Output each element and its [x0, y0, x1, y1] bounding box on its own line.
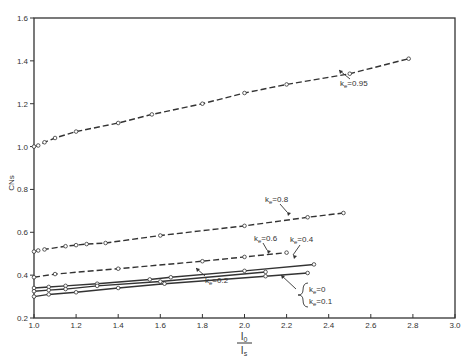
data-point-marker: [243, 91, 247, 95]
x-tick-label: 1.2: [71, 321, 83, 330]
data-point-marker: [64, 244, 68, 248]
data-point-marker: [85, 242, 89, 246]
data-point-marker: [74, 290, 78, 294]
svg-text:I0: I0: [241, 331, 248, 343]
data-point-marker: [116, 267, 120, 271]
y-tick-label: 0.4: [17, 271, 29, 280]
data-point-marker: [148, 278, 152, 282]
series-line: [34, 59, 409, 147]
data-point-marker: [342, 211, 346, 215]
chart: 0.20.40.60.81.01.21.41.6 1.01.21.41.61.8…: [0, 0, 475, 361]
data-point-marker: [47, 293, 51, 297]
data-point-marker: [43, 140, 47, 144]
data-point-marker: [243, 255, 247, 259]
data-point-marker: [53, 136, 57, 140]
data-point-marker: [74, 243, 78, 247]
x-tick-label: 2.6: [365, 321, 377, 330]
data-point-marker: [306, 271, 310, 275]
data-point-marker: [264, 270, 268, 274]
x-axis-label: I0 Is: [237, 331, 252, 357]
data-point-marker: [306, 215, 310, 219]
data-point-marker: [150, 113, 154, 117]
data-point-marker: [312, 263, 316, 267]
x-tick-label: 3.0: [449, 321, 461, 330]
x-tick-label: 2.4: [323, 321, 335, 330]
data-point-marker: [243, 269, 247, 273]
series-label: ke=0: [309, 285, 326, 295]
svg-text:CNs: CNs: [7, 175, 16, 191]
data-point-marker: [243, 224, 247, 228]
y-tick-label: 1.6: [17, 14, 29, 23]
series-line: [34, 213, 343, 252]
series-label: ke=0.95: [340, 79, 368, 89]
data-point-marker: [201, 259, 205, 263]
series-label: ke=0.4: [290, 235, 314, 245]
x-tick-label: 1.6: [155, 321, 167, 330]
x-tick-label: 1.8: [197, 321, 209, 330]
y-tick-label: 0.8: [17, 185, 29, 194]
data-point-marker: [201, 102, 205, 106]
series-label: ke=0.1: [309, 297, 333, 307]
y-axis-ticks: 0.20.40.60.81.01.21.41.6: [17, 14, 34, 323]
data-point-marker: [43, 248, 47, 252]
series-label: ke=0.6: [254, 234, 278, 244]
data-point-marker: [348, 72, 352, 76]
x-axis-ticks: 1.01.21.41.61.82.02.22.42.62.83.0: [28, 314, 461, 330]
data-point-marker: [285, 251, 289, 255]
series-label: ke=0.2: [205, 276, 229, 286]
x-tick-label: 2.2: [281, 321, 293, 330]
data-point-marker: [53, 272, 57, 276]
data-point-marker: [32, 145, 36, 149]
data-point-marker: [264, 274, 268, 278]
y-tick-label: 0.6: [17, 228, 29, 237]
data-point-marker: [36, 144, 40, 148]
data-point-marker: [47, 288, 51, 292]
y-tick-label: 1.0: [17, 143, 29, 152]
y-tick-label: 0.2: [17, 314, 29, 323]
data-point-marker: [32, 289, 36, 293]
x-tick-label: 1.4: [113, 321, 125, 330]
series-label: ke=0.8: [265, 195, 289, 205]
y-axis-label: CNs: [7, 175, 16, 191]
y-tick-label: 1.2: [17, 100, 29, 109]
data-point-marker: [116, 286, 120, 290]
x-tick-label: 2.8: [407, 321, 419, 330]
data-point-marker: [163, 282, 167, 286]
x-tick-label: 2.0: [239, 321, 251, 330]
data-point-marker: [169, 275, 173, 279]
data-point-marker: [407, 57, 411, 61]
x-tick-label: 1.0: [28, 321, 40, 330]
y-tick-label: 1.4: [17, 57, 29, 66]
series-lines: [32, 57, 410, 298]
data-point-marker: [104, 241, 108, 245]
svg-text:Is: Is: [241, 345, 248, 357]
data-point-marker: [95, 284, 99, 288]
data-point-marker: [36, 249, 40, 253]
data-point-marker: [159, 234, 163, 238]
data-point-marker: [116, 121, 120, 125]
data-point-marker: [285, 83, 289, 87]
data-point-marker: [32, 275, 36, 279]
data-point-marker: [64, 287, 68, 291]
data-point-marker: [32, 295, 36, 299]
data-point-marker: [74, 130, 78, 134]
data-point-marker: [32, 250, 36, 254]
data-point-marker: [159, 280, 163, 284]
series-labels: ke=0.95ke=0.8ke=0.6ke=0.4ke=0.2ke=0ke=0.…: [196, 70, 368, 307]
